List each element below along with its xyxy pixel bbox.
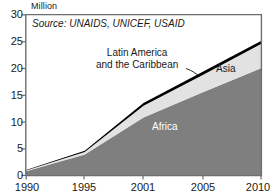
series-label-africa: Africa (152, 121, 178, 132)
area-chart: Million (0, 0, 277, 196)
x-tick-label: 2001 (131, 182, 155, 193)
x-tick-label: 1990 (15, 182, 39, 193)
series-label-latin-america-caribbean-line1: Latin America (96, 47, 178, 59)
x-tick-label: 1995 (72, 182, 96, 193)
source-note: Source: UNAIDS, UNICEF, USAID (32, 18, 185, 29)
series-label-latin-america-caribbean-line2: and the Caribbean (96, 59, 178, 71)
x-tick-label: 2005 (191, 182, 215, 193)
x-axis-tick-labels: 1990 1995 2001 2005 2010 (0, 0, 277, 196)
series-label-latin-america-caribbean: Latin America and the Caribbean (96, 47, 178, 71)
series-label-asia: Asia (216, 63, 235, 74)
x-tick-label: 2010 (246, 182, 270, 193)
